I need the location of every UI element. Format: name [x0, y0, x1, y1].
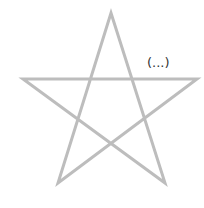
star-outline [23, 13, 197, 183]
pentagram-diagram [0, 0, 204, 208]
ellipsis-annotation: (...) [147, 55, 170, 70]
